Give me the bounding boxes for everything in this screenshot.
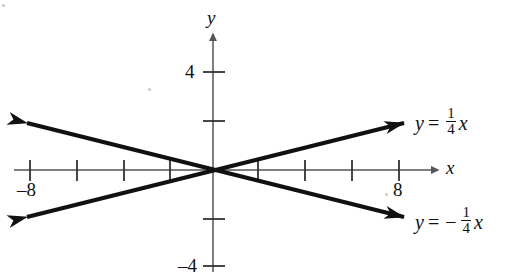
x-tick-label-neg8: –8 bbox=[17, 180, 36, 199]
equation2-lhs: y bbox=[415, 212, 424, 232]
x-tick-label-8: 8 bbox=[393, 180, 403, 199]
equation1-lhs: y bbox=[415, 113, 424, 133]
equation1-numerator: 1 bbox=[446, 106, 456, 121]
y-axis-label: y bbox=[207, 8, 215, 27]
equation2-numerator: 1 bbox=[461, 205, 471, 220]
equation1-fraction: 1 4 bbox=[446, 106, 456, 138]
equation2-denominator: 4 bbox=[461, 220, 471, 236]
x-axis-label: x bbox=[446, 158, 454, 177]
equation-label-positive-slope: y = 1 4 x bbox=[415, 107, 468, 139]
equation2-minus-sign: − bbox=[445, 212, 456, 232]
equation1-variable: x bbox=[459, 113, 468, 133]
scan-speck bbox=[148, 88, 151, 91]
scan-speck bbox=[2, 4, 5, 7]
equation2-fraction: 1 4 bbox=[461, 205, 471, 237]
equation2-variable: x bbox=[474, 212, 483, 232]
equation-label-negative-slope: y = − 1 4 x bbox=[415, 206, 483, 238]
equation2-equals: = bbox=[428, 212, 439, 232]
graph-figure: y x –8 8 4 –4 y = 1 4 x y = − 1 4 x bbox=[0, 0, 508, 277]
scan-speck bbox=[385, 193, 388, 196]
y-tick-label-4: 4 bbox=[185, 62, 195, 81]
y-tick-label-neg4: –4 bbox=[178, 256, 197, 275]
equation1-equals: = bbox=[428, 113, 439, 133]
equation1-denominator: 4 bbox=[446, 121, 456, 137]
